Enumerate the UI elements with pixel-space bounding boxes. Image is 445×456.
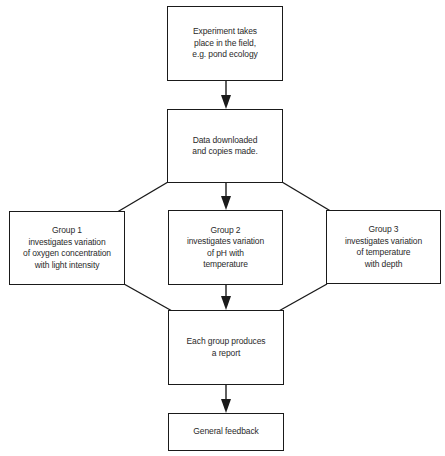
node-group-1: Group 1 investigates variation of oxygen… [9,211,125,285]
node-report-line-1: Each group produces [187,336,266,348]
node-group1-line-3: of oxygen concentration [23,248,111,260]
arrow-report-to-feedback [221,384,231,413]
node-data-line-2: and copies made. [192,146,258,158]
node-group3-line-4: with depth [365,259,403,271]
node-group-3: Group 3 investigates variation of temper… [326,210,441,284]
node-general-feedback: General feedback [168,413,284,451]
node-experiment: Experiment takes place in the field, e.g… [167,6,283,81]
node-group3-line-3: of temperature [357,247,411,259]
node-group3-line-2: investigates variation [345,236,422,248]
flowchart-canvas: Experiment takes place in the field, e.g… [0,0,445,456]
node-report: Each group produces a report [168,310,284,385]
node-group2-line-3: of pH with [207,248,244,260]
node-group1-line-1: Group 1 [52,225,82,237]
node-data-downloaded: Data downloaded and copies made. [167,109,283,183]
node-report-line-2: a report [212,348,241,360]
node-group1-line-4: with light intensity [35,260,100,272]
node-group2-line-2: investigates variation [187,236,264,248]
arrow-group2-to-report [221,284,231,310]
node-experiment-line-1: Experiment takes [193,26,257,38]
node-experiment-line-3: e.g. pond ecology [192,49,257,61]
arrow-experiment-to-data [221,80,231,109]
node-data-line-1: Data downloaded [193,135,258,147]
node-group-2: Group 2 investigates variation of pH wit… [168,210,283,285]
node-experiment-line-2: place in the field, [194,38,256,50]
node-feedback-line-1: General feedback [193,426,259,438]
node-group3-line-1: Group 3 [368,224,398,236]
node-group2-line-1: Group 2 [210,225,240,237]
arrow-data-to-group2 [221,182,231,210]
node-group1-line-2: investigates variation [28,237,105,249]
node-group2-line-4: temperature [203,259,248,271]
